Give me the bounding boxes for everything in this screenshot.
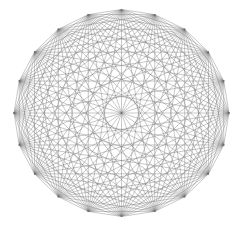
graph-edge xyxy=(14,113,58,197)
graph-edge xyxy=(35,174,89,212)
complete-graph-diagram xyxy=(0,0,243,226)
graph-edge xyxy=(19,29,58,145)
graph-edge xyxy=(14,15,88,113)
graph-edge xyxy=(35,10,122,53)
graph-edge xyxy=(122,174,209,217)
graph-edge xyxy=(35,15,89,53)
graph-edge xyxy=(19,81,154,211)
graph-edge xyxy=(14,113,122,217)
graph-edge xyxy=(35,29,59,52)
graph-edge xyxy=(88,15,208,53)
graph-edge xyxy=(14,29,58,113)
graph-edge xyxy=(35,174,122,217)
graph-edge xyxy=(19,15,88,81)
graph-edge xyxy=(155,15,224,81)
graph-edge xyxy=(58,29,208,174)
graph-edge xyxy=(155,145,224,211)
graph-edge xyxy=(185,174,209,197)
graph-edge xyxy=(88,15,223,145)
graph-edge xyxy=(122,10,209,53)
graph-edge xyxy=(88,15,121,217)
graph-edges xyxy=(14,10,229,217)
graph-edge xyxy=(185,29,229,113)
graph-edge xyxy=(185,29,209,52)
graph-edge xyxy=(19,29,58,81)
graph-edge xyxy=(122,113,230,217)
graph-edge xyxy=(19,145,88,211)
graph-edge xyxy=(122,10,230,114)
graph-edge xyxy=(35,174,59,197)
graph-edge xyxy=(14,10,122,114)
graph-edge xyxy=(58,29,154,211)
graph-edge xyxy=(19,145,58,197)
graph-edge xyxy=(35,52,224,145)
graph-edge xyxy=(58,29,121,216)
graph-edge xyxy=(88,15,184,197)
graph-edge xyxy=(185,113,229,197)
